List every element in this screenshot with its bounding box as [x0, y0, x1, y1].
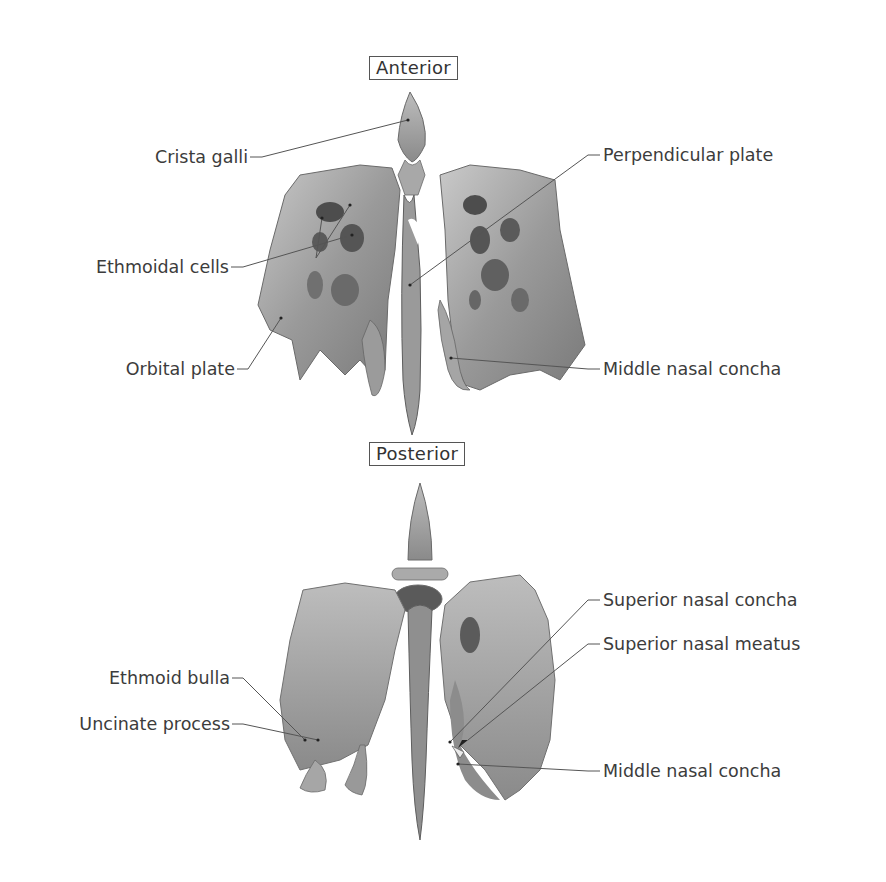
label-middle-nasal-concha-posterior: Middle nasal concha: [603, 760, 781, 782]
ethmoid-bone-diagram: Anterior Posterior Crista galli Ethmoida…: [0, 0, 886, 882]
illustration-layer: [0, 0, 886, 882]
label-superior-nasal-concha: Superior nasal concha: [603, 589, 798, 611]
label-orbital-plate: Orbital plate: [126, 358, 235, 380]
label-crista-galli: Crista galli: [155, 146, 248, 168]
view-tag-anterior: Anterior: [369, 56, 458, 80]
label-uncinate-process: Uncinate process: [79, 713, 230, 735]
label-middle-nasal-concha-anterior: Middle nasal concha: [603, 358, 781, 380]
label-perpendicular-plate: Perpendicular plate: [603, 144, 773, 166]
label-ethmoid-bulla: Ethmoid bulla: [109, 667, 230, 689]
view-tag-posterior: Posterior: [369, 442, 465, 466]
label-superior-nasal-meatus: Superior nasal meatus: [603, 633, 800, 655]
anterior-illustration: [258, 92, 585, 435]
label-ethmoidal-cells: Ethmoidal cells: [96, 256, 229, 278]
posterior-illustration: [280, 483, 555, 840]
